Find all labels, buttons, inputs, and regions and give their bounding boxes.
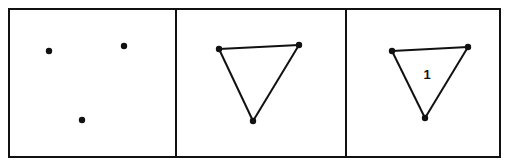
- vertex-dot: [296, 42, 302, 48]
- vertex-dot: [46, 48, 52, 54]
- panel-2: [176, 9, 346, 157]
- vertex-dot: [422, 115, 428, 121]
- vertex-dot: [465, 44, 471, 50]
- panel-border: [176, 9, 346, 157]
- panel-1: [9, 9, 176, 157]
- triangle-edge: [392, 47, 468, 51]
- vertex-dot: [79, 117, 85, 123]
- panel-border: [346, 9, 500, 157]
- vertex-dot: [250, 118, 256, 124]
- triangle-edge: [219, 45, 299, 49]
- diagram-canvas: 1: [0, 0, 508, 166]
- vertex-dot: [121, 43, 127, 49]
- triangle-edge: [219, 49, 253, 121]
- triangle-label: 1: [423, 67, 430, 82]
- vertex-dot: [389, 48, 395, 54]
- triangle-edge: [425, 47, 468, 118]
- triangle-edge: [253, 45, 299, 121]
- panel-border: [9, 9, 176, 157]
- panel-3: 1: [346, 9, 500, 157]
- triangle-edge: [392, 51, 425, 118]
- vertex-dot: [216, 46, 222, 52]
